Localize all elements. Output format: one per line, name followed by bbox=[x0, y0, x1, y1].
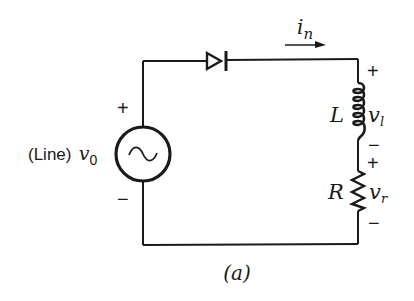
top-wire-right bbox=[226, 59, 358, 60]
resistor-icon bbox=[352, 171, 364, 211]
inductor-voltage-label: vl bbox=[368, 103, 384, 129]
inductor-plus-sign: + bbox=[367, 60, 379, 82]
diode-icon bbox=[207, 51, 226, 71]
source-plus-sign: + bbox=[117, 97, 129, 119]
circuit-diagram: in + − (Line) v0 L vl + − R vr + − (a) bbox=[0, 0, 414, 301]
resistor-label: R bbox=[327, 180, 344, 204]
resistor-voltage-label: vr bbox=[369, 180, 388, 206]
resistor-minus-sign: − bbox=[368, 212, 380, 234]
figure-caption: (a) bbox=[223, 261, 251, 285]
current-label: in bbox=[297, 15, 313, 43]
source-minus-sign: − bbox=[117, 188, 129, 210]
bottom-wire bbox=[143, 244, 358, 245]
inductor-label: L bbox=[329, 103, 344, 127]
ac-source-icon bbox=[116, 127, 170, 181]
inductor-icon bbox=[354, 83, 365, 140]
resistor-plus-sign: + bbox=[367, 152, 379, 174]
source-label: (Line) v0 bbox=[28, 142, 97, 168]
